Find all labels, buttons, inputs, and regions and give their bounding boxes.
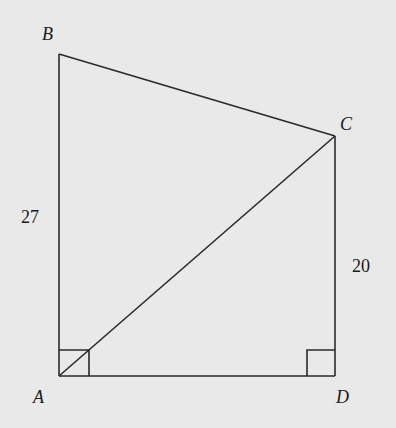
right-angle-marker-d [307,350,335,376]
vertex-label-d: D [335,387,349,407]
quadrilateral-diagram: B C A D 27 20 [0,0,396,428]
vertex-label-a: A [32,387,45,407]
vertex-label-c: C [340,114,353,134]
segment-bc [59,54,335,136]
segment-ac-diagonal [59,136,335,376]
side-length-ab: 27 [21,207,39,227]
side-length-cd: 20 [352,256,370,276]
vertex-label-b: B [42,24,53,44]
